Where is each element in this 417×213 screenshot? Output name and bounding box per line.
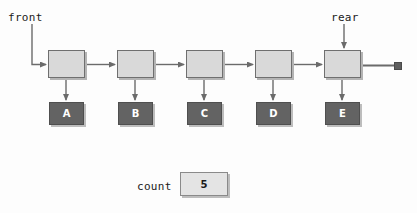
- null-pointer-icon: [394, 62, 402, 70]
- rear-pointer-label: rear: [331, 11, 359, 24]
- data-box-2: B: [118, 102, 153, 125]
- data-box-4: D: [256, 102, 291, 125]
- data-box-1: A: [49, 102, 84, 125]
- front-pointer-line: [32, 24, 46, 65]
- front-pointer-label: front: [8, 11, 43, 24]
- linked-list-diagram: front rear A B C D E count 5: [0, 0, 417, 213]
- node-box-5: [324, 50, 361, 78]
- data-box-3: C: [187, 102, 222, 125]
- node-box-1: [48, 50, 85, 78]
- node-box-3: [186, 50, 223, 78]
- count-label: count: [137, 180, 172, 193]
- node-box-2: [117, 50, 154, 78]
- node-box-4: [255, 50, 292, 78]
- data-box-5: E: [325, 102, 360, 125]
- count-value-box: 5: [180, 172, 228, 196]
